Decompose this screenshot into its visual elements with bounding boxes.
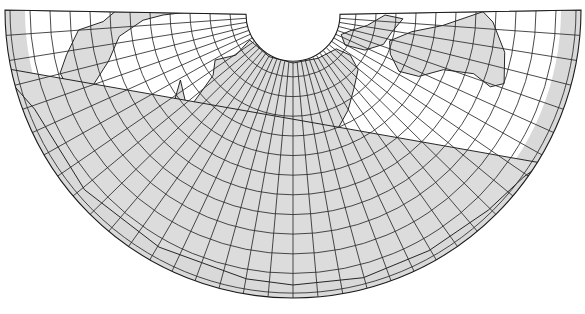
map-container: Conic projection world map (north polar … [0, 0, 585, 314]
conic-world-map [0, 0, 585, 314]
